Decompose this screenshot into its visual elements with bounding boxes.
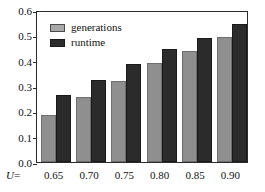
bar-generations-0.70 <box>76 97 91 162</box>
bar-generations-0.80 <box>147 63 162 162</box>
x-axis-tick-label: 0.65 <box>37 169 71 181</box>
bar-runtime-0.85 <box>197 38 212 162</box>
legend-item-runtime: runtime <box>50 36 146 49</box>
bar-generations-0.90 <box>217 37 232 162</box>
bar-runtime-0.80 <box>162 49 177 162</box>
x-axis-equals: = <box>14 169 20 181</box>
legend-label-runtime: runtime <box>71 37 105 48</box>
y-axis-tick-mark <box>33 138 37 139</box>
bar-generations-0.65 <box>41 115 56 162</box>
bar-runtime-0.90 <box>232 24 247 162</box>
bar-group <box>217 12 247 162</box>
y-axis-tick-label: 0.4 <box>6 57 32 67</box>
x-axis-variable: U <box>6 169 14 181</box>
bar-runtime-0.65 <box>56 95 71 162</box>
y-axis-tick-mark <box>33 37 37 38</box>
bar-group <box>147 12 177 162</box>
legend-swatch-generations-icon <box>50 24 65 32</box>
y-axis-tick-mark <box>33 12 37 13</box>
x-axis-tick-label: 0.70 <box>72 169 106 181</box>
x-axis-tick-label: 0.85 <box>178 169 212 181</box>
y-axis-tick-label: 0.1 <box>6 133 32 143</box>
x-axis-tick-label: 0.80 <box>143 169 177 181</box>
bar-generations-0.85 <box>182 51 197 162</box>
y-axis-tick-mark <box>33 88 37 89</box>
bar-chart: 0.00.10.20.30.40.50.6 generations runtim… <box>0 0 265 192</box>
bar-generations-0.75 <box>111 81 126 162</box>
legend: generations runtime <box>50 21 146 51</box>
x-axis: U= 0.650.700.750.800.850.90 <box>0 167 265 187</box>
y-axis-tick-mark <box>33 62 37 63</box>
bar-runtime-0.75 <box>126 64 141 162</box>
x-axis-tick-label: 0.75 <box>107 169 141 181</box>
bar-runtime-0.70 <box>91 80 106 162</box>
y-axis-tick-label: 0.5 <box>6 31 32 41</box>
y-axis-tick-label: 0.6 <box>6 6 32 16</box>
x-axis-label: U= <box>6 169 20 181</box>
x-axis-tick-label: 0.90 <box>213 169 247 181</box>
legend-item-generations: generations <box>50 21 146 34</box>
y-axis-tick-label: 0.2 <box>6 107 32 117</box>
y-axis-tick-mark <box>33 164 37 165</box>
plot-area: generations runtime <box>36 11 248 163</box>
bar-group <box>182 12 212 162</box>
legend-swatch-runtime-icon <box>50 39 65 47</box>
y-axis: 0.00.10.20.30.40.50.6 <box>0 0 32 192</box>
y-axis-tick-mark <box>33 113 37 114</box>
y-axis-tick-label: 0.3 <box>6 82 32 92</box>
legend-label-generations: generations <box>71 22 122 33</box>
